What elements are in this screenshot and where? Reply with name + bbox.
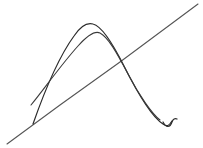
sketch-drawing <box>0 0 203 148</box>
paper-background <box>0 0 203 148</box>
sketch-canvas: Hand-drawn sketch of a parabolic arc cro… <box>0 0 203 148</box>
